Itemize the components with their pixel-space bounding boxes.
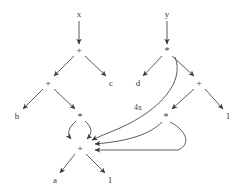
node-mul-r3: * <box>164 112 169 121</box>
node-mul-l3: * <box>78 112 83 121</box>
edge-plus-l2-to-mul-l3 <box>54 89 75 109</box>
node-mul-top: * <box>165 46 170 55</box>
node-a: a <box>53 176 57 185</box>
node-plus-r2: + <box>196 79 202 88</box>
node-y: y <box>165 10 170 19</box>
node-plus-bottom: + <box>77 144 83 153</box>
edge-plus-r2-to-one-r <box>205 89 223 109</box>
node-b: b <box>15 112 20 121</box>
node-d: d <box>136 79 141 88</box>
node-plus-l2: + <box>45 79 51 88</box>
node-one-right: 1 <box>226 112 231 121</box>
edge-label-4x: 4x <box>134 104 142 112</box>
edge-plus-r2-to-mul-r3 <box>172 89 194 109</box>
node-one-bottom: 1 <box>108 176 113 185</box>
edge-plus-top-to-plus-l2 <box>54 56 74 76</box>
edge-plus-top-to-c <box>85 56 106 76</box>
node-plus-top: + <box>76 46 82 55</box>
edge-mul-top-to-d <box>143 56 162 76</box>
edge-mul-r3-to-plus-bot-inner <box>95 122 162 144</box>
edge-plus-bot-to-a <box>60 154 75 173</box>
edge-mul-top-to-plus-bot-long <box>92 57 177 140</box>
edge-plus-bot-to-one-b <box>86 154 105 173</box>
edge-mul-r3-to-plus-bot-outer <box>95 122 186 150</box>
node-c: c <box>109 79 113 88</box>
edge-mul-l3-to-plus-bot-right <box>85 121 91 139</box>
expression-dag-diagram: x y + * + c d + b * * 1 + a 1 4x <box>0 0 242 194</box>
dag-edges-svg <box>0 0 242 194</box>
edge-plus-l2-to-b <box>23 89 43 109</box>
node-x: x <box>77 10 82 19</box>
edge-mul-l3-to-plus-bot-left <box>69 121 76 139</box>
